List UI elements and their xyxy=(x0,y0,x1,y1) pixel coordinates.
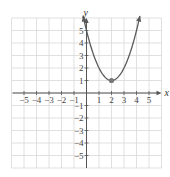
y-tick-label: −3 xyxy=(74,126,84,136)
y-tick-label: 5 xyxy=(79,26,84,36)
vertex-point xyxy=(109,78,114,83)
y-tick-label: 3 xyxy=(79,51,84,61)
x-tick-label: −4 xyxy=(32,95,42,105)
y-tick-label: −4 xyxy=(74,138,84,148)
x-axis-arrow-icon xyxy=(157,91,162,95)
axes xyxy=(13,18,162,168)
y-tick-label: −5 xyxy=(74,151,84,161)
x-tick-label: 4 xyxy=(134,95,139,105)
y-axis-title: y xyxy=(83,7,89,18)
x-tick-label: 1 xyxy=(97,95,102,105)
x-tick-label: 2 xyxy=(109,95,114,105)
x-tick-label: −5 xyxy=(19,95,29,105)
y-tick-label: 4 xyxy=(79,38,84,48)
y-tick-label: 1 xyxy=(79,76,84,86)
x-tick-label: 3 xyxy=(122,95,127,105)
y-tick-label: 2 xyxy=(79,63,84,73)
x-tick-label: −3 xyxy=(44,95,54,105)
y-tick-label: −1 xyxy=(74,101,84,111)
x-tick-label: 5 xyxy=(147,95,152,105)
x-tick-label: −2 xyxy=(57,95,67,105)
x-axis-title: x xyxy=(164,87,170,98)
y-tick-label: −2 xyxy=(74,113,84,123)
coordinate-plane: −5−4−3−2−112345−5−4−3−2−112345 x y xyxy=(0,0,169,177)
